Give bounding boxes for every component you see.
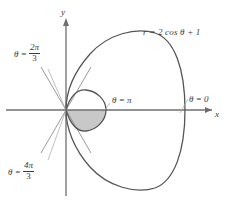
curve-equation-label: r = 2 cos θ + 1 [143, 28, 201, 37]
theta-two-pi-over-three-lead: θ = [14, 49, 27, 59]
leader-line-two-pi-over-three [48, 69, 66, 110]
x-axis-arrow [205, 107, 212, 113]
fraction-denominator: 3 [23, 172, 34, 181]
leader-line-theta-zero [180, 99, 188, 113]
theta-pi-label: θ = π [112, 96, 132, 105]
fraction-numerator: 2π [29, 43, 40, 52]
theta-two-pi-over-three-label: θ = 2π 3 [14, 44, 40, 65]
x-axis-label: x [215, 110, 219, 119]
y-axis-arrow [63, 18, 69, 26]
y-axis-label: y [61, 8, 65, 17]
fraction-numerator: 4π [23, 161, 34, 170]
polar-graph-figure: y x r = 2 cos θ + 1 θ = 0 θ = π θ = 2π 3… [0, 0, 231, 202]
fraction-denominator: 3 [29, 54, 40, 63]
leader-line-four-pi-over-three [48, 110, 66, 160]
fraction-four-pi-over-three: 4π 3 [23, 161, 34, 182]
theta-zero-label: θ = 0 [189, 95, 209, 104]
theta-four-pi-over-three-label: θ = 4π 3 [8, 162, 34, 183]
fraction-two-pi-over-three: 2π 3 [29, 43, 40, 64]
x-axis [6, 107, 212, 113]
theta-four-pi-over-three-lead: θ = [8, 167, 21, 177]
